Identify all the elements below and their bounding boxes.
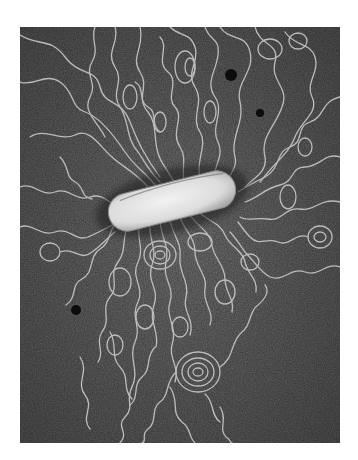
micrograph-svg: [20, 27, 340, 443]
dark-spot: [225, 69, 237, 81]
micrograph-image: [20, 27, 340, 443]
dark-spot: [71, 305, 81, 315]
dark-spot: [256, 109, 264, 117]
